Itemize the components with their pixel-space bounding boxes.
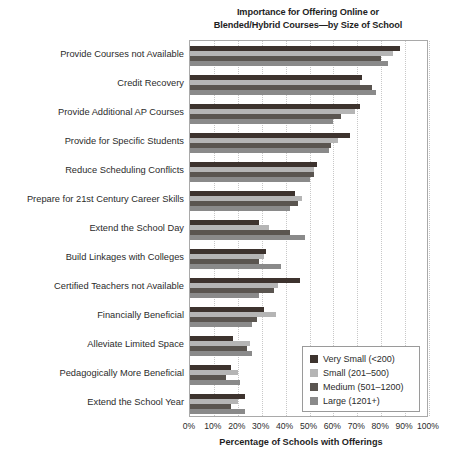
- bar-group: [190, 244, 427, 273]
- x-axis-tick: 30%: [252, 421, 269, 431]
- legend-swatch-very-small: [310, 355, 318, 363]
- bar-group: [190, 273, 427, 302]
- legend: Very Small (<200) Small (201–500) Medium…: [302, 346, 420, 412]
- bar: [190, 90, 376, 95]
- y-axis-label: Alleviate Limited Space: [0, 339, 184, 350]
- x-axis-tick: 90%: [395, 421, 412, 431]
- bar-group: [190, 157, 427, 186]
- bar: [190, 293, 259, 298]
- y-axis-label: Extend the School Year: [0, 397, 184, 408]
- legend-label-very-small: Very Small (<200): [323, 354, 395, 364]
- bar: [190, 264, 281, 269]
- gridline: [429, 41, 431, 416]
- x-axis-tick: 40%: [276, 421, 293, 431]
- bar: [190, 61, 388, 66]
- legend-swatch-medium: [310, 383, 318, 391]
- bar-group: [190, 302, 427, 331]
- bar-group: [190, 41, 427, 70]
- y-axis-label: Certified Teachers not Available: [0, 281, 184, 292]
- x-axis-tick: 70%: [348, 421, 365, 431]
- x-axis-tick: 20%: [228, 421, 245, 431]
- y-axis-label: Credit Recovery: [0, 78, 184, 89]
- y-axis-label: Extend the School Day: [0, 223, 184, 234]
- y-axis-label: Provide Additional AP Courses: [0, 107, 184, 118]
- legend-item-very-small: Very Small (<200): [310, 352, 419, 366]
- legend-label-medium: Medium (501–1200): [323, 382, 404, 392]
- legend-label-small: Small (201–500): [323, 368, 389, 378]
- x-axis-tick-labels: 0%10%20%30%40%50%60%70%80%90%100%: [189, 421, 428, 435]
- y-axis-label: Reduce Scheduling Conflicts: [0, 165, 184, 176]
- bar: [190, 119, 333, 124]
- plot-area: Very Small (<200) Small (201–500) Medium…: [189, 40, 428, 417]
- legend-item-medium: Medium (501–1200): [310, 380, 419, 394]
- bar: [190, 148, 329, 153]
- bar: [190, 380, 240, 385]
- bar: [190, 409, 245, 414]
- chart-title: Importance for Offering Online or Blende…: [186, 6, 430, 31]
- bar: [190, 322, 252, 327]
- x-axis-title: Percentage of Schools with Offerings: [150, 437, 452, 447]
- y-axis-labels: Provide Courses not AvailableCredit Reco…: [0, 40, 184, 417]
- bar-group: [190, 128, 427, 157]
- bar-chart: Importance for Offering Online or Blende…: [0, 0, 452, 467]
- x-axis-tick: 50%: [300, 421, 317, 431]
- bar-group: [190, 99, 427, 128]
- y-axis-label: Provide Courses not Available: [0, 49, 184, 60]
- bar-group: [190, 70, 427, 99]
- y-axis-label: Provide for Specific Students: [0, 136, 184, 147]
- bar: [190, 235, 305, 240]
- legend-swatch-small: [310, 369, 318, 377]
- chart-title-line-1: Importance for Offering Online or: [186, 6, 430, 19]
- legend-label-large: Large (1201+): [323, 396, 380, 406]
- x-axis-tick: 10%: [204, 421, 221, 431]
- bar: [190, 351, 252, 356]
- chart-title-line-2: Blended/Hybrid Courses—by Size of School: [186, 19, 430, 32]
- y-axis-label: Financially Beneficial: [0, 310, 184, 321]
- x-axis-tick: 0%: [183, 421, 195, 431]
- y-axis-label: Build Linkages with Colleges: [0, 252, 184, 263]
- legend-item-large: Large (1201+): [310, 394, 419, 408]
- legend-swatch-large: [310, 397, 318, 405]
- bar: [190, 206, 290, 211]
- legend-item-small: Small (201–500): [310, 366, 419, 380]
- y-axis-label: Pedagogically More Beneficial: [0, 368, 184, 379]
- bar: [190, 177, 310, 182]
- y-axis-label: Prepare for 21st Century Career Skills: [0, 194, 184, 205]
- bar-group: [190, 186, 427, 215]
- x-axis-tick: 60%: [324, 421, 341, 431]
- x-axis-tick: 80%: [372, 421, 389, 431]
- bar-group: [190, 215, 427, 244]
- x-axis-tick: 100%: [417, 421, 439, 431]
